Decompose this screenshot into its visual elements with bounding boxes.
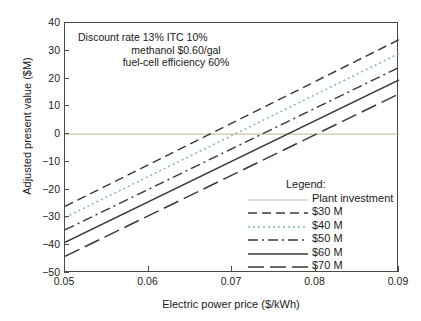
y-tick-label: 40 xyxy=(26,17,60,28)
annotation-line-1: Discount rate 13% ITC 10% xyxy=(76,31,276,44)
legend-entries: Plant investment$30 M$40 M$50 M$60 M$70 … xyxy=(248,191,398,272)
legend-title: Legend: xyxy=(248,178,398,191)
y-tick-mark xyxy=(64,105,69,106)
legend-entry: Plant investment xyxy=(248,191,398,205)
chart-figure: Adjusted present value ($M) 403020100−10… xyxy=(0,0,421,321)
y-tick-label: −30 xyxy=(26,211,60,222)
x-tick-mark xyxy=(231,266,232,272)
y-tick-label: −40 xyxy=(26,239,60,250)
y-tick-label: 0 xyxy=(26,128,60,139)
y-tick-label: −20 xyxy=(26,184,60,195)
legend-line-sample xyxy=(248,259,308,271)
legend-label: $30 M xyxy=(308,205,343,217)
x-tick-mark xyxy=(64,266,65,272)
x-tick-label: 0.08 xyxy=(292,276,338,287)
y-tick-mark xyxy=(64,161,69,162)
annotation-text: Discount rate 13% ITC 10% methanol $0.60… xyxy=(76,31,276,69)
legend-label: $70 M xyxy=(308,259,343,271)
legend-label: $40 M xyxy=(308,219,343,231)
y-tick-mark xyxy=(64,133,69,134)
annotation-line-3: fuel-cell efficiency 60% xyxy=(76,56,276,69)
legend-line-sample xyxy=(248,232,308,244)
legend-label: $60 M xyxy=(308,246,343,258)
y-tick-mark xyxy=(64,272,69,273)
y-tick-mark xyxy=(64,216,69,217)
legend-label: $50 M xyxy=(308,232,343,244)
annotation-line-2: methanol $0.60/gal xyxy=(76,44,276,57)
legend-line-sample xyxy=(248,219,308,231)
x-tick-label: 0.07 xyxy=(208,276,254,287)
legend-line-sample xyxy=(248,205,308,217)
legend-label: Plant investment xyxy=(308,192,393,204)
legend-line-sample xyxy=(248,246,308,258)
x-tick-mark xyxy=(398,266,399,272)
y-tick-mark xyxy=(64,189,69,190)
legend-entry: $60 M xyxy=(248,245,398,259)
x-axis-title: Electric power price ($/kWh) xyxy=(64,298,398,310)
legend-entry: $40 M xyxy=(248,218,398,232)
y-tick-label: 20 xyxy=(26,73,60,84)
y-tick-label: −10 xyxy=(26,156,60,167)
y-tick-label: 30 xyxy=(26,45,60,56)
x-tick-mark xyxy=(148,266,149,272)
x-tick-label: 0.09 xyxy=(375,276,421,287)
x-tick-label: 0.05 xyxy=(41,276,87,287)
legend-line-sample xyxy=(248,192,308,204)
y-tick-mark xyxy=(64,22,69,23)
y-tick-mark xyxy=(64,244,69,245)
chart-legend: Legend: Plant investment$30 M$40 M$50 M$… xyxy=(248,178,398,272)
legend-entry: $30 M xyxy=(248,205,398,219)
x-tick-mark xyxy=(315,266,316,272)
legend-entry: $50 M xyxy=(248,232,398,246)
y-tick-mark xyxy=(64,78,69,79)
y-tick-mark xyxy=(64,50,69,51)
legend-entry: $70 M xyxy=(248,259,398,273)
x-axis-tick-labels: 0.050.060.070.080.09 xyxy=(0,276,421,290)
y-axis-tick-labels: 403020100−10−20−30−40−50 xyxy=(22,0,60,321)
x-tick-label: 0.06 xyxy=(125,276,171,287)
y-tick-label: 10 xyxy=(26,100,60,111)
